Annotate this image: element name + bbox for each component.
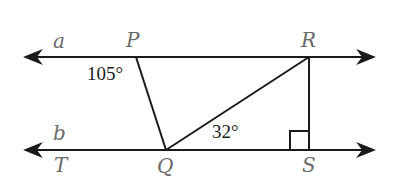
label-point-q: Q — [157, 154, 173, 178]
label-line-b: b — [53, 121, 66, 145]
segment-pq — [136, 57, 166, 150]
angle-label-p: 105° — [87, 63, 123, 84]
geometry-diagram: a b P R T Q S 105° 32° — [0, 0, 398, 188]
label-line-a: a — [53, 29, 65, 53]
right-angle-marker — [290, 131, 309, 150]
label-point-t: T — [54, 153, 69, 177]
angle-label-q: 32° — [212, 121, 239, 142]
label-point-p: P — [125, 28, 140, 52]
diagram-svg: a b P R T Q S 105° 32° — [0, 0, 398, 188]
label-point-r: R — [300, 28, 316, 52]
label-point-s: S — [302, 153, 316, 177]
